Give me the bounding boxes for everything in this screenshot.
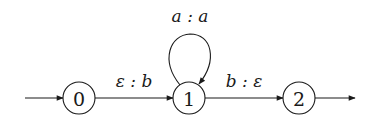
transition-0-1: ε : b xyxy=(95,71,173,98)
state-2: 2 xyxy=(283,82,315,114)
state-0: 0 xyxy=(63,82,95,114)
transition-label-0-1: ε : b xyxy=(116,71,153,91)
state-1: 1 xyxy=(173,82,205,114)
state-label-0: 0 xyxy=(73,88,85,110)
transition-1-1-loop: a : a xyxy=(169,6,210,85)
transition-label-1-1: a : a xyxy=(172,6,209,26)
transducer-diagram: ε : b a : a b : ε 0 1 2 xyxy=(0,0,373,121)
transition-1-2: b : ε xyxy=(205,71,283,98)
state-label-2: 2 xyxy=(293,88,305,110)
transition-label-1-2: b : ε xyxy=(226,71,263,91)
state-label-1: 1 xyxy=(183,88,195,110)
